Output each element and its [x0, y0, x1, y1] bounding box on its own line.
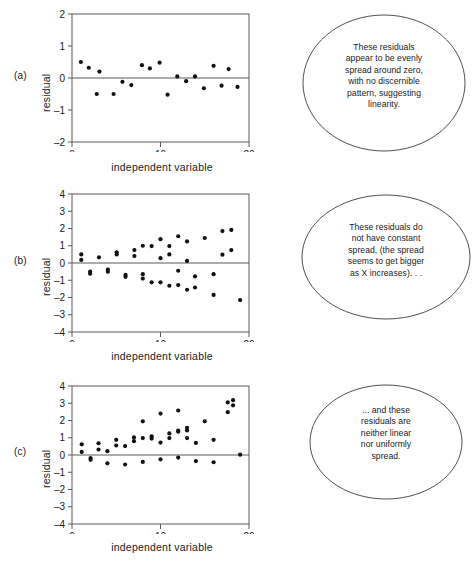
svg-text:20: 20: [243, 531, 255, 534]
svg-text:–3: –3: [54, 309, 66, 320]
svg-text:–1: –1: [54, 275, 66, 286]
svg-text:2: 2: [59, 223, 65, 234]
svg-text:4: 4: [59, 189, 65, 200]
panel-b-plot: –4–3–2–10123401020: [30, 186, 270, 342]
panel-b-label: (b): [14, 255, 27, 266]
svg-text:–4: –4: [54, 519, 66, 530]
svg-text:2: 2: [59, 9, 65, 20]
svg-text:20: 20: [243, 149, 255, 152]
svg-text:3: 3: [59, 398, 65, 409]
panel-c-plot: –4–3–2–10123401020: [30, 378, 270, 534]
panel-b: (b) residual –4–3–2–10123401020 independ…: [0, 180, 472, 370]
svg-text:–2: –2: [54, 137, 66, 148]
svg-text:4: 4: [59, 381, 65, 392]
panel-a-plot: –2–101201020: [30, 6, 270, 152]
svg-text:0: 0: [59, 73, 65, 84]
svg-text:10: 10: [155, 339, 167, 342]
panel-a-xlabel: independent variable: [62, 161, 262, 173]
svg-text:3: 3: [59, 206, 65, 217]
panel-b-bubble-text: These residuals do not have constant spr…: [312, 222, 460, 279]
svg-text:–1: –1: [54, 105, 66, 116]
panel-c-xlabel: independent variable: [62, 541, 262, 553]
svg-text:–1: –1: [54, 467, 66, 478]
svg-text:–3: –3: [54, 501, 66, 512]
svg-text:0: 0: [69, 339, 75, 342]
svg-text:1: 1: [59, 240, 65, 251]
svg-text:–2: –2: [54, 292, 66, 303]
panel-a-label: (a): [14, 70, 27, 81]
panel-c-label: (c): [14, 446, 26, 457]
panel-a-bubble-text: These residuals appear to be evenly spre…: [310, 42, 458, 110]
svg-text:1: 1: [59, 41, 65, 52]
svg-text:0: 0: [59, 258, 65, 269]
svg-text:0: 0: [69, 149, 75, 152]
svg-text:2: 2: [59, 415, 65, 426]
panel-b-xlabel: independent variable: [62, 350, 262, 362]
svg-text:1: 1: [59, 432, 65, 443]
svg-text:10: 10: [155, 531, 167, 534]
svg-text:10: 10: [155, 149, 167, 152]
panel-c-bubble-text: ... and these residuals are neither line…: [320, 405, 452, 462]
panel-a: (a) residual –2–101201020 independent va…: [0, 0, 472, 180]
panel-c: (c) residual –4–3–2–10123401020 independ…: [0, 374, 472, 562]
svg-text:–4: –4: [54, 327, 66, 338]
svg-text:0: 0: [69, 531, 75, 534]
svg-text:20: 20: [243, 339, 255, 342]
svg-text:0: 0: [59, 450, 65, 461]
svg-text:–2: –2: [54, 484, 66, 495]
